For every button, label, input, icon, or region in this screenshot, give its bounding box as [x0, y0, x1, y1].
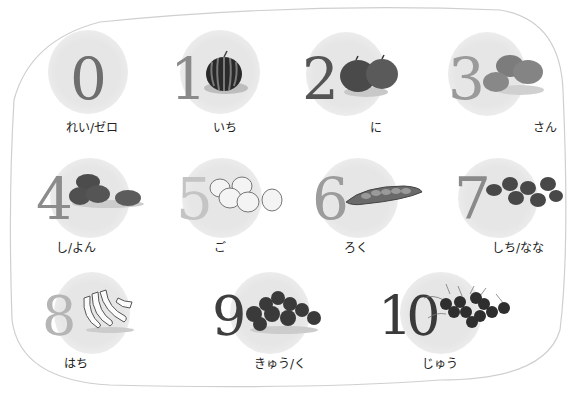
reading-9: きゅう/く [254, 354, 306, 371]
cherries-icon [424, 284, 524, 334]
digit-0: 0 [70, 50, 107, 108]
reading-5: ご [214, 238, 226, 255]
reading-1: いち [213, 118, 237, 135]
digit-9: 9 [212, 290, 246, 344]
reading-4: し/よん [56, 238, 96, 255]
reading-10: じゅう [422, 354, 458, 371]
digit-2: 2 [302, 50, 339, 108]
apples-icon [336, 52, 406, 102]
reading-0: れい/ゼロ [66, 118, 118, 135]
onions-icon [208, 176, 284, 216]
reading-7: しち/なな [492, 238, 544, 255]
bananas-icon [78, 288, 138, 336]
reading-2: に [370, 118, 382, 135]
mandarins-icon [480, 50, 550, 100]
strawberries-icon [484, 174, 564, 214]
watermelon-icon [200, 48, 250, 98]
reading-8: はち [64, 354, 88, 371]
reading-3: さん [533, 118, 557, 135]
pea-pod-icon [344, 180, 424, 210]
digit-8: 8 [42, 290, 76, 344]
potatoes-icon [68, 172, 148, 212]
plums-icon [244, 290, 324, 336]
reading-6: ろく [344, 238, 368, 255]
